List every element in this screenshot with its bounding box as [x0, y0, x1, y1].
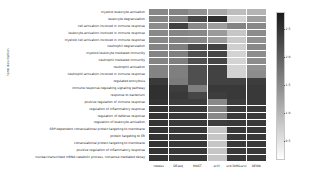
heatmap-cell: [169, 120, 188, 126]
heatmap-cell: [169, 51, 188, 57]
heatmap-cell: [188, 65, 207, 71]
heatmap-cell: [227, 58, 246, 64]
heatmap-cell: [227, 148, 246, 154]
heatmap-cell: [169, 23, 188, 29]
heatmap-cell: [227, 120, 246, 126]
y-tick-label: myeloid leukocyte activation: [26, 9, 147, 16]
heatmap-cell: [169, 141, 188, 147]
heatmap-cell: [169, 155, 188, 161]
heatmap-cell: [227, 44, 246, 50]
heatmap-cell: [247, 51, 266, 57]
heatmap-cell: [208, 85, 227, 91]
y-tick-label: immune response-regulating signaling pat…: [26, 85, 147, 92]
colorbar-tick: 1.5: [284, 83, 290, 87]
heatmap-cell: [208, 65, 227, 71]
heatmap-cell: [169, 16, 188, 22]
heatmap-cell: [247, 71, 266, 77]
heatmap-cell: [227, 78, 246, 84]
y-tick-label: neutrophil mediated immunity: [26, 57, 147, 64]
heatmap-cell: [247, 141, 266, 147]
heatmap-cell: [208, 120, 227, 126]
heatmap-cell: [149, 23, 168, 29]
heatmap-cell: [169, 78, 188, 84]
colorbar-tick: 1.0: [284, 111, 290, 115]
heatmap-cell: [188, 71, 207, 77]
y-tick-label: myeloid cell activation involved in immu…: [26, 37, 147, 44]
heatmap-cell: [169, 44, 188, 50]
heatmap-cell: [169, 106, 188, 112]
heatmap-cell: [247, 23, 266, 29]
y-axis-tick-labels: myeloid leukocyte activationleukocyte de…: [26, 9, 147, 161]
heatmap-cell: [188, 85, 207, 91]
heatmap-cell: [208, 106, 227, 112]
heatmap-cell: [149, 51, 168, 57]
heatmap-cell: [188, 106, 207, 112]
y-tick-label: regulation of inflammatory response: [26, 106, 147, 113]
y-tick-label: regulated exocytosis: [26, 78, 147, 85]
x-tick-label: MAST: [188, 162, 207, 176]
heatmap-cell: [227, 134, 246, 140]
heatmap-cell: [208, 23, 227, 29]
heatmap-cell: [169, 71, 188, 77]
heatmap-cell: [208, 113, 227, 119]
y-tick-label: SRP-dependent cotranslational protein ta…: [26, 126, 147, 133]
heatmap-cell: [247, 16, 266, 22]
heatmap-grid: [149, 9, 266, 161]
y-tick-label: myeloid leukocyte mediated immunity: [26, 50, 147, 57]
heatmap-cell: [208, 141, 227, 147]
heatmap-cell: [227, 51, 246, 57]
y-tick-label: regulation of leukocyte activation: [26, 120, 147, 127]
colorbar-tick-labels: 2.52.01.51.00.5: [284, 12, 310, 158]
heatmap-cell: [227, 37, 246, 43]
heatmap-cell: [208, 127, 227, 133]
heatmap-cell: [208, 134, 227, 140]
heatmap-cell: [169, 134, 188, 140]
heatmap-cell: [208, 9, 227, 15]
heatmap-cell: [169, 148, 188, 154]
heatmap-cell: [188, 9, 207, 15]
heatmap-cell: [169, 113, 188, 119]
heatmap-cell: [247, 65, 266, 71]
heatmap-cell: [227, 155, 246, 161]
heatmap-cell: [227, 30, 246, 36]
heatmap-cell: [247, 58, 266, 64]
y-axis-title: term description: [6, 32, 10, 92]
heatmap-cell: [149, 65, 168, 71]
y-tick-label: cell activation involved in immune respo…: [26, 23, 147, 30]
heatmap-cell: [169, 37, 188, 43]
heatmap-cell: [227, 16, 246, 22]
heatmap-cell: [169, 127, 188, 133]
heatmap-cell: [169, 65, 188, 71]
heatmap-cell: [227, 92, 246, 98]
heatmap-cell: [149, 99, 168, 105]
heatmap-cell: [149, 30, 168, 36]
heatmap-cell: [149, 134, 168, 140]
heatmap-cell: [169, 92, 188, 98]
heatmap-cell: [247, 37, 266, 43]
heatmap-cell: [188, 92, 207, 98]
y-tick-label: neutrophil activation involved in immune…: [26, 71, 147, 78]
heatmap-cell: [208, 78, 227, 84]
heatmap-cell: [227, 127, 246, 133]
heatmap-cell: [149, 44, 168, 50]
heatmap-cell: [188, 37, 207, 43]
heatmap-cell: [227, 106, 246, 112]
y-tick-label: nuclear-transcribed mRNA catabolic proce…: [26, 154, 147, 161]
x-tick-label: scd.DIM&scvi: [226, 162, 246, 176]
heatmap-cell: [208, 51, 227, 57]
y-tick-label: positive regulation of immune response: [26, 99, 147, 106]
x-tick-label: lowess: [149, 162, 168, 176]
heatmap-cell: [188, 30, 207, 36]
heatmap-cell: [188, 78, 207, 84]
heatmap-cell: [247, 78, 266, 84]
heatmap-cell: [247, 148, 266, 154]
y-tick-label: protein targeting to ER: [26, 133, 147, 140]
heatmap-cell: [247, 30, 266, 36]
heatmap-cell: [247, 127, 266, 133]
heatmap-cell: [208, 30, 227, 36]
heatmap-cell: [149, 58, 168, 64]
heatmap-cell: [149, 141, 168, 147]
heatmap-cell: [149, 120, 168, 126]
heatmap-cell: [208, 155, 227, 161]
heatmap-cell: [149, 148, 168, 154]
